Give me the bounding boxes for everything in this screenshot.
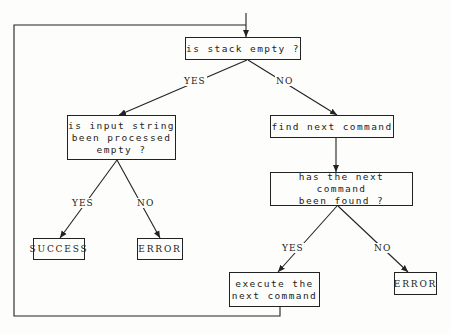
edge-label-input-yes: YES	[71, 198, 95, 208]
node-error-left: ERROR	[137, 238, 183, 260]
node-execute-command: execute the next command	[229, 272, 320, 307]
flowchart: is stack empty ? is input string been pr…	[0, 0, 451, 334]
edge-label-found-no: NO	[373, 243, 392, 253]
edge-label-stack-yes: YES	[183, 76, 207, 86]
node-command-found: has the next command been found ?	[270, 172, 413, 206]
edge-label-stack-no: NO	[275, 76, 294, 86]
node-find-next-command: find next command	[270, 115, 394, 138]
edge-label-found-yes: YES	[281, 243, 305, 253]
node-success: SUCCESS	[33, 238, 85, 260]
node-stack-empty: is stack empty ?	[185, 37, 301, 60]
node-input-empty: is input string been processed empty ?	[67, 115, 176, 160]
edge-label-input-no: NO	[136, 198, 155, 208]
node-error-right: ERROR	[394, 272, 437, 295]
